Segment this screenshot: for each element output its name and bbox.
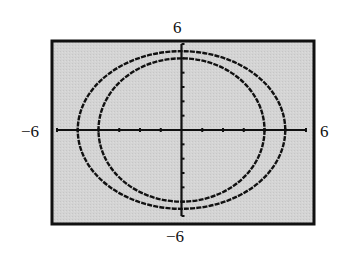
y-max-label: 6 xyxy=(173,19,182,36)
screen-background xyxy=(52,41,314,224)
graph-screen xyxy=(0,0,346,259)
x-max-label: 6 xyxy=(320,123,329,140)
y-min-label: −6 xyxy=(166,228,184,245)
x-min-label: −6 xyxy=(21,123,39,140)
